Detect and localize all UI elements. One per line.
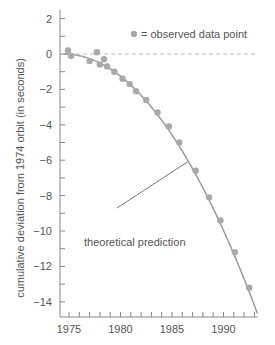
- data-point: [176, 139, 182, 145]
- data-point: [127, 81, 133, 87]
- legend-label: = observed data point: [141, 28, 247, 40]
- observed-data-points: [65, 47, 253, 291]
- y-tick-label: 2: [46, 13, 52, 25]
- chart: cumulative deviation from 1974 orbit (in…: [0, 0, 275, 345]
- data-point: [94, 49, 100, 55]
- y-tick-label: −4: [39, 119, 52, 131]
- axes: 20−2−4−6−8−10−12−141975198019851990: [33, 10, 257, 335]
- y-tick-label: −10: [33, 225, 52, 237]
- x-tick-label: 1975: [57, 323, 81, 335]
- data-point: [97, 61, 103, 67]
- data-point: [104, 63, 110, 69]
- data-point: [101, 56, 107, 62]
- y-tick-label: −12: [33, 260, 52, 272]
- y-axis-label: cumulative deviation from 1974 orbit (in…: [14, 58, 26, 298]
- y-tick-label: −6: [39, 154, 52, 166]
- x-tick-label: 1980: [108, 323, 132, 335]
- data-point: [133, 88, 139, 94]
- data-point: [232, 249, 238, 255]
- legend-marker-icon: [131, 31, 137, 37]
- y-tick-label: −14: [33, 296, 52, 308]
- data-point: [143, 97, 149, 103]
- y-tick-label: −8: [39, 190, 52, 202]
- y-tick-label: 0: [46, 48, 52, 60]
- x-tick-label: 1985: [160, 323, 184, 335]
- y-axis-title: cumulative deviation from 1974 orbit (in…: [14, 58, 26, 298]
- x-tick-label: 1990: [211, 323, 235, 335]
- y-tick-label: −2: [39, 83, 52, 95]
- data-point: [119, 76, 125, 82]
- data-point: [206, 194, 212, 200]
- data-point: [68, 53, 74, 59]
- data-point: [86, 58, 92, 64]
- data-point: [154, 109, 160, 115]
- annotation-label: theoretical prediction: [84, 236, 186, 248]
- data-point: [111, 69, 117, 75]
- data-point: [192, 168, 198, 174]
- data-point: [217, 217, 223, 223]
- legend: = observed data point: [131, 28, 247, 40]
- data-point: [246, 284, 252, 290]
- theoretical-prediction-curve: [64, 54, 258, 314]
- data-point: [166, 123, 172, 129]
- annotation-theoretical-prediction: theoretical prediction: [84, 162, 187, 248]
